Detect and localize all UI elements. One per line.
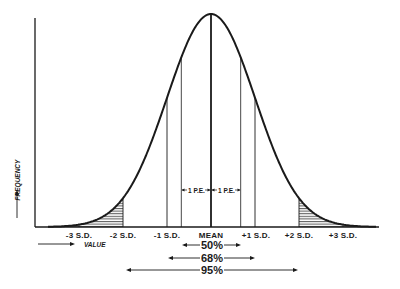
ipe-right-label: 1 P.E. [218, 187, 235, 194]
diagram-canvas: FREQUENCY -3 S.D. -2 S.D. -1 S.D. MEAN +… [0, 0, 400, 289]
band68-left-arrowhead-icon [168, 256, 173, 260]
ipe-right-arrowhead-r-icon [238, 189, 241, 192]
left-tail-hatch [35, 0, 123, 227]
value-arrowhead-icon [70, 242, 75, 246]
tick-label-plus2sd: +2 S.D. [285, 231, 313, 240]
band50-right-arrowhead-icon [236, 243, 241, 247]
band68-right-arrowhead-icon [250, 256, 255, 260]
band95-right-arrowhead-icon [293, 268, 298, 272]
ipe-left-arrowhead-l-icon [182, 189, 185, 192]
shaded-tails [35, 0, 379, 227]
tick-label-plus3sd: +3 S.D. [329, 231, 357, 240]
normal-distribution-diagram: FREQUENCY -3 S.D. -2 S.D. -1 S.D. MEAN +… [0, 0, 400, 289]
band-50-label: 50% [201, 239, 223, 251]
tick-label-minus3sd: -3 S.D. [66, 231, 92, 240]
band-68-label: 68% [201, 252, 223, 264]
band95-left-arrowhead-icon [126, 268, 131, 272]
coverage-bands: 50% 68% 95% [126, 239, 298, 276]
y-axis-label-group: FREQUENCY [14, 159, 22, 218]
band-95-label: 95% [201, 264, 223, 276]
right-tail-hatch [299, 0, 379, 227]
ipe-left-arrowhead-r-icon [208, 189, 211, 192]
x-axis-label-group: VALUE [38, 241, 106, 248]
x-axis-label: VALUE [84, 241, 106, 248]
ipe-left-label: 1 P.E. [188, 187, 205, 194]
tick-label-minus2sd: -2 S.D. [110, 231, 136, 240]
tick-label-minus1sd: -1 S.D. [154, 231, 180, 240]
sd-markers [79, 14, 343, 227]
tick-label-plus1sd: +1 S.D. [242, 231, 270, 240]
ipe-right-arrowhead-l-icon [212, 189, 215, 192]
bell-curve [48, 14, 376, 227]
band50-left-arrowhead-icon [182, 243, 187, 247]
